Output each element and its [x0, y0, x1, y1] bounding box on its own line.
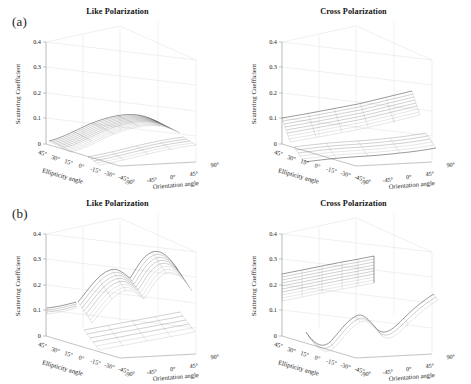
z-tick-1: 0.1: [269, 114, 277, 121]
z-tick-1: 0.1: [269, 306, 277, 313]
x-tick-0: 45°: [38, 341, 48, 349]
x-tick-4: -15°: [90, 358, 102, 367]
subplot-b-cross: Cross Polarization: [236, 192, 471, 384]
z-axis-label: Scattering Coefficient: [250, 256, 257, 317]
y-axis-label: Orientation angle: [389, 179, 435, 190]
subplot-a-like-title: Like Polarization: [0, 7, 235, 16]
z-tick-0: 0: [38, 140, 41, 147]
x-tick-5: -30°: [104, 170, 116, 179]
y-tick-3: 45°: [189, 171, 199, 178]
x-tick-2: 15°: [64, 158, 74, 166]
figure-root: (a) Like Polarization: [0, 0, 471, 384]
z-ticks: 0 0.1 0.2 0.3 0.4: [33, 230, 46, 339]
x-tick-3: 0°: [78, 162, 85, 169]
z-tick-2: 0.2: [269, 281, 277, 288]
surface-double-peak: [78, 251, 192, 323]
axis-lines: [46, 42, 196, 166]
z-ticks: 0 0.1 0.2 0.3 0.4: [269, 38, 282, 147]
x-tick-0: 45°: [38, 149, 48, 157]
x-tick-2: 15°: [300, 158, 310, 166]
subplot-b-like: Like Polarization: [0, 192, 235, 384]
z-tick-2: 0.2: [33, 281, 41, 288]
x-tick-4: -15°: [326, 358, 338, 367]
y-axis-label: Orientation angle: [153, 179, 199, 190]
grid: [282, 213, 432, 354]
x-axis-label: Ellipticity angle: [41, 358, 84, 376]
y-tick-4: 90°: [446, 354, 456, 361]
x-tick-5: -30°: [340, 170, 352, 179]
x-tick-1: 30°: [51, 154, 61, 162]
subplot-a-cross: Cross Polarization: [236, 0, 471, 192]
subplot-a-like: Like Polarization: [0, 0, 235, 192]
x-tick-0: 45°: [274, 149, 284, 157]
y-axis-label: Orientation angle: [153, 371, 199, 382]
plot-b-like-svg: 0 0.1 0.2 0.3 0.4 Scattering Coefficient…: [0, 208, 235, 384]
y-tick-2: 0°: [406, 174, 413, 181]
z-axis-label: Scattering Coefficient: [14, 64, 21, 125]
z-tick-1: 0.1: [33, 306, 41, 313]
z-tick-3: 0.3: [269, 255, 277, 262]
x-tick-4: -15°: [326, 166, 338, 175]
y-tick-0: -90°: [124, 371, 136, 378]
x-tick-1: 30°: [51, 346, 61, 354]
z-tick-1: 0.1: [33, 114, 41, 121]
z-tick-2: 0.2: [269, 89, 277, 96]
z-tick-3: 0.3: [33, 63, 41, 70]
surface-left-band: [47, 302, 76, 314]
subplot-b-like-title: Like Polarization: [0, 199, 235, 208]
y-tick-4: 90°: [446, 162, 456, 169]
x-tick-1: 30°: [287, 346, 297, 354]
z-tick-4: 0.4: [269, 230, 278, 237]
z-ticks: 0 0.1 0.2 0.3 0.4: [33, 38, 46, 147]
x-tick-2: 15°: [300, 350, 310, 358]
x-axis-label: Ellipticity angle: [277, 358, 320, 376]
x-tick-2: 15°: [64, 350, 74, 358]
surface-lower-sheet: [84, 312, 195, 350]
y-tick-0: -90°: [360, 371, 372, 378]
plot-b-like: 0 0.1 0.2 0.3 0.4 Scattering Coefficient…: [0, 208, 235, 384]
z-tick-2: 0.2: [33, 89, 41, 96]
y-tick-0: -90°: [124, 179, 136, 186]
plot-a-cross-svg: 0 0.1 0.2 0.3 0.4 Scattering Coefficient…: [236, 16, 471, 192]
plot-a-like: 0 0.1 0.2 0.3 0.4 Scattering Coefficient…: [0, 16, 235, 192]
x-tick-1: 30°: [287, 154, 297, 162]
z-tick-3: 0.3: [269, 63, 277, 70]
z-tick-0: 0: [38, 332, 41, 339]
y-tick-4: 90°: [210, 354, 220, 361]
y-tick-3: 45°: [189, 363, 199, 370]
z-tick-0: 0: [274, 332, 277, 339]
plot-a-like-svg: 0 0.1 0.2 0.3 0.4 Scattering Coefficient…: [0, 16, 235, 192]
surface-lower-sheet: [294, 133, 436, 162]
surface-lower-sheet: [88, 137, 196, 165]
x-tick-3: 0°: [314, 162, 321, 169]
z-axis-label: Scattering Coefficient: [14, 256, 21, 317]
y-tick-3: 45°: [425, 171, 435, 178]
axis-lines: [282, 234, 432, 358]
y-tick-2: 0°: [170, 366, 177, 373]
x-tick-5: -30°: [104, 362, 116, 371]
subplot-b-cross-title: Cross Polarization: [236, 199, 471, 208]
panel-b: (b) Like Polarization: [0, 192, 471, 384]
z-tick-4: 0.4: [33, 230, 42, 237]
y-tick-0: -90°: [360, 179, 372, 186]
y-tick-2: 0°: [406, 366, 413, 373]
y-axis-label: Orientation angle: [389, 371, 435, 382]
z-tick-0: 0: [274, 140, 277, 147]
z-axis-label: Scattering Coefficient: [250, 64, 257, 125]
y-tick-4: 90°: [210, 162, 220, 169]
z-tick-4: 0.4: [269, 38, 278, 45]
x-tick-0: 45°: [274, 341, 284, 349]
x-tick-5: -30°: [340, 362, 352, 371]
surface-upper-ridge: [49, 114, 180, 152]
z-tick-4: 0.4: [33, 38, 42, 45]
axis-lines: [46, 234, 196, 358]
x-axis-label: Ellipticity angle: [277, 166, 320, 184]
y-tick-3: 45°: [425, 363, 435, 370]
plot-b-cross-svg: 0 0.1 0.2 0.3 0.4 Scattering Coefficient…: [236, 208, 471, 384]
z-tick-3: 0.3: [33, 255, 41, 262]
y-tick-2: 0°: [170, 174, 177, 181]
surface-lower-curve: [306, 294, 438, 351]
plot-b-cross: 0 0.1 0.2 0.3 0.4 Scattering Coefficient…: [236, 208, 471, 384]
z-ticks: 0 0.1 0.2 0.3 0.4: [269, 230, 282, 339]
x-tick-3: 0°: [314, 354, 321, 361]
